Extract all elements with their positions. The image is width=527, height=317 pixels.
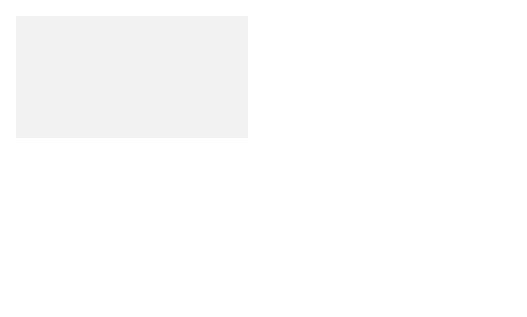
mitochondrial-transport-diagram [0, 0, 527, 317]
